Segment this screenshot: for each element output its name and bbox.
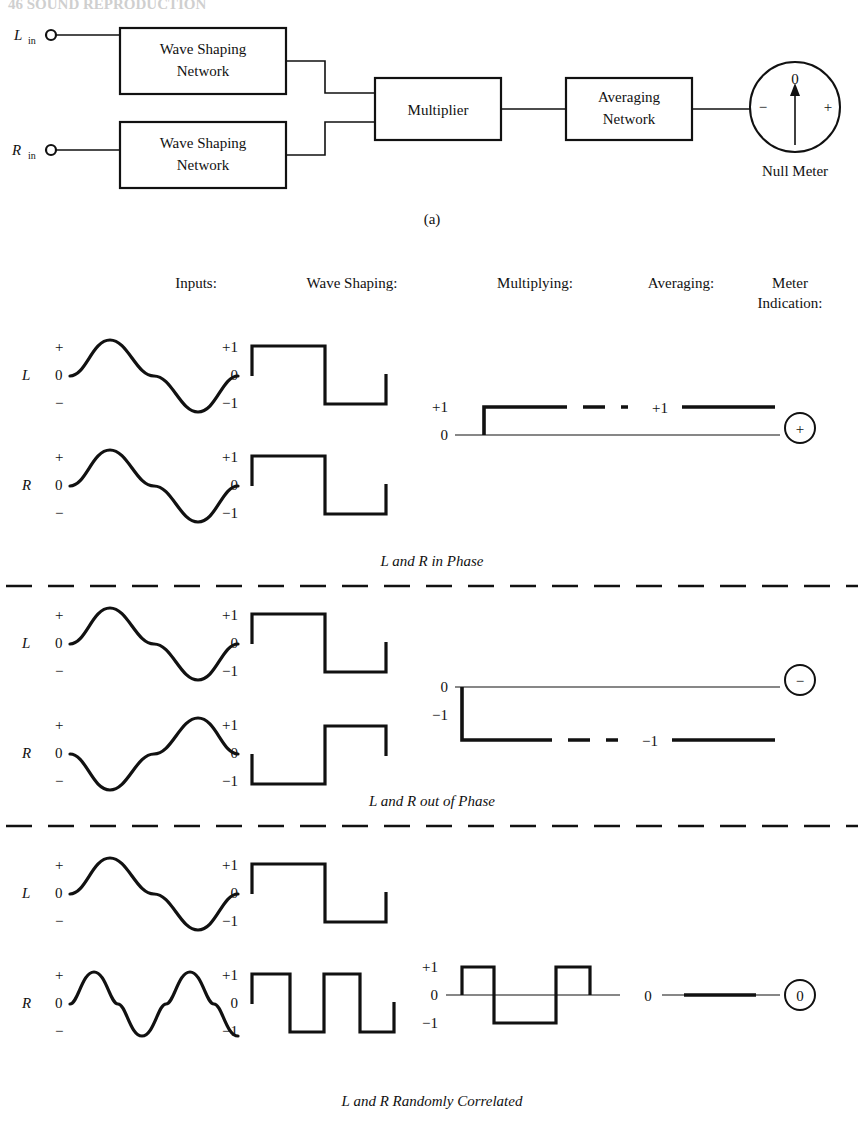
s3-l-shaped-square [252,864,386,922]
s2-product-tick-minus1: −1 [432,707,448,723]
s1-l-shaped-tick-plus1: +1 [222,339,238,355]
s2-l-input-sine [70,608,238,680]
block-wave-shaping-1 [120,28,286,94]
s3-r-shaped-tick-minus1: −1 [222,1023,238,1039]
s2-l-shaped-tick-plus1: +1 [222,607,238,623]
block-averaging-line1: Averaging [598,89,661,105]
meter-scale-minus: − [759,99,767,115]
input-sublabel-r: in [28,150,36,161]
s1-product-tick-zero: 0 [441,427,449,443]
s1-r-tick-plus: + [55,449,63,465]
s1-average-label: +1 [652,400,668,416]
s3-r-tick-plus: + [55,967,63,983]
s3-l-channel-label: L [21,885,30,901]
s2-l-tick-minus: − [55,663,63,679]
s3-l-shaped-tick-minus1: −1 [222,913,238,929]
s2-average-label: −1 [642,733,658,749]
block-wave-shaping-1-line1: Wave Shaping [160,41,247,57]
s3-r-shaped-tick-plus1: +1 [222,967,238,983]
s1-meter-symbol: + [796,421,804,437]
s1-r-tick-zero: 0 [55,477,63,493]
s3-r-channel-label: R [21,995,31,1011]
s3-l-shaped-tick-plus1: +1 [222,857,238,873]
input-sublabel-l: in [28,35,36,46]
column-headers: Inputs: Wave Shaping: Multiplying: Avera… [175,275,822,311]
block-wave-shaping-2-line2: Network [177,157,230,173]
s1-l-channel-label: L [21,367,30,383]
figure-stereo-null-meter: 46 SOUND REPRODUCTION L in R in Wave Sha… [0,0,864,1126]
s3-r-input-sine [70,972,238,1036]
wire-ws1-to-multiplier [286,61,375,93]
s3-l-tick-plus: + [55,857,63,873]
block-averaging-line2: Network [603,111,656,127]
s1-r-shaped-tick-zero: 0 [231,477,239,493]
s3-meter-symbol: 0 [796,988,804,1004]
section-in-phase: L + 0 − +1 0 −1 R + 0 − +1 0 −1 +1 0 +1 … [21,339,815,569]
s2-l-shaped-tick-minus1: −1 [222,663,238,679]
s2-r-shaped-tick-minus1: −1 [222,773,238,789]
s3-r-shaped-square [252,974,394,1032]
s2-product-fall [462,687,530,740]
block-diagram: L in R in Wave Shaping Network Wave Shap… [11,27,840,228]
part-a-label: (a) [424,211,441,228]
s2-l-tick-plus: + [55,607,63,623]
block-averaging [566,78,692,140]
s3-product-tick-plus1: +1 [422,959,438,975]
s1-l-shaped-square [252,346,386,404]
block-wave-shaping-2-line1: Wave Shaping [160,135,247,151]
s3-r-shaped-tick-zero: 0 [231,995,239,1011]
s2-r-shaped-tick-zero: 0 [231,745,239,761]
s2-meter-indication: − [785,665,815,695]
s1-l-shaped-tick-minus1: −1 [222,395,238,411]
s2-r-tick-plus: + [55,717,63,733]
s2-r-tick-minus: − [55,773,63,789]
running-head: 46 SOUND REPRODUCTION [8,0,207,12]
s2-l-shaped-tick-zero: 0 [231,635,239,651]
s2-product-tick-zero: 0 [441,679,449,695]
section-randomly-correlated: L + 0 − +1 0 −1 R + 0 − +1 0 −1 +1 0 −1 … [21,857,815,1109]
s1-l-input-sine [70,340,238,412]
meter-scale-plus: + [824,99,832,115]
s2-caption: L and R out of Phase [368,793,495,809]
s2-l-channel-label: L [21,635,30,651]
s1-r-channel-label: R [21,477,31,493]
s1-r-shaped-square [252,456,386,514]
input-label-r: R [11,142,21,158]
s1-l-tick-zero: 0 [55,367,63,383]
s1-meter-indication: + [785,413,815,443]
s1-product-tick-plus1: +1 [432,399,448,415]
s1-r-shaped-tick-minus1: −1 [222,505,238,521]
col-header-meter-indication-line2: Indication: [758,295,823,311]
null-meter: 0 − + Null Meter [750,62,840,179]
s2-l-tick-zero: 0 [55,635,63,651]
s2-r-channel-label: R [21,745,31,761]
s1-r-input-sine [70,450,238,522]
s1-l-shaped-tick-zero: 0 [231,367,239,383]
s3-r-tick-minus: − [55,1023,63,1039]
col-header-inputs: Inputs: [175,275,217,291]
s1-caption: L and R in Phase [379,553,483,569]
meter-caption: Null Meter [762,163,828,179]
s2-r-shaped-square [252,726,386,784]
block-multiplier-label: Multiplier [408,102,469,118]
s3-l-shaped-tick-zero: 0 [231,885,239,901]
s2-r-input-sine [70,718,238,790]
col-header-multiplying: Multiplying: [497,275,573,291]
s3-product-tick-minus1: −1 [422,1015,438,1031]
s1-l-tick-minus: − [55,395,63,411]
col-header-averaging: Averaging: [648,275,714,291]
block-wave-shaping-1-line2: Network [177,63,230,79]
s1-r-tick-minus: − [55,505,63,521]
s2-meter-symbol: − [796,673,804,689]
s2-r-shaped-tick-plus1: +1 [222,717,238,733]
s2-r-tick-zero: 0 [55,745,63,761]
input-label-l: L [13,27,22,43]
s3-caption: L and R Randomly Correlated [341,1093,523,1109]
s3-average-label: 0 [644,988,652,1004]
s3-l-input-sine [70,858,238,930]
section-out-of-phase: L + 0 − +1 0 −1 R + 0 − +1 0 −1 0 −1 −1 … [21,607,815,809]
terminal-r-in [46,145,56,155]
s3-l-tick-zero: 0 [55,885,63,901]
s1-l-tick-plus: + [55,339,63,355]
wire-ws2-to-multiplier [286,122,375,155]
